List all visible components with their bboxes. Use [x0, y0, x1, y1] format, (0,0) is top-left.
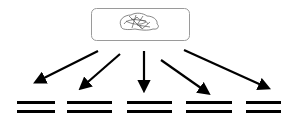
target-4-equals-bars-icon: [186, 101, 232, 113]
arrow-2: [81, 54, 120, 88]
arrow-5: [184, 50, 268, 88]
fan-out-diagram: [0, 0, 297, 122]
arrow-1: [36, 51, 98, 82]
arrows: [36, 50, 268, 93]
target-2-equals-bars-icon: [67, 101, 112, 113]
target-1-equals-bars-icon: [17, 101, 55, 113]
target-3-equals-bars-icon: [127, 101, 172, 113]
target-5-equals-bars-icon: [246, 101, 281, 113]
targets: [17, 101, 281, 113]
arrow-4: [161, 60, 208, 93]
